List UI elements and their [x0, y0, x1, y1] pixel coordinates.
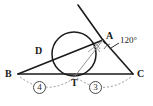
vertex-label-t: T [71, 78, 78, 88]
angle-label-120: 120° [120, 36, 137, 45]
inscribed-circle [52, 32, 96, 76]
geometry-canvas [0, 0, 153, 106]
measure-arc-bt [20, 77, 74, 87]
vertex-label-a: A [106, 31, 113, 41]
segment-label-tc: 3 [89, 81, 102, 94]
measure-arc-tc [77, 77, 131, 87]
geometry-figure: A B C D T 120° 4 3 [0, 0, 153, 106]
vertex-label-c: C [137, 69, 144, 79]
vertex-label-d: D [35, 46, 42, 56]
vertex-label-b: B [5, 69, 12, 79]
angle-leader-line [111, 43, 119, 48]
segment-label-bt: 4 [33, 81, 46, 94]
tangent-ray-above-a [78, 5, 105, 43]
